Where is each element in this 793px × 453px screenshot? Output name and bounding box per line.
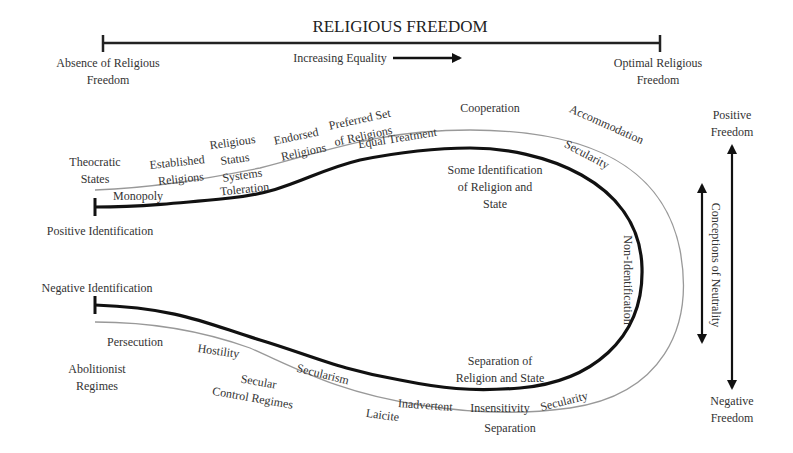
label-abolitionist-line1: Abolitionist: [68, 362, 126, 376]
label-secularism: Secularism: [295, 361, 351, 388]
label-abolitionist-line2: Regimes: [76, 379, 118, 393]
label-monopoly: Monopoly: [113, 189, 163, 203]
label-accommodation: Accommodation: [567, 102, 646, 147]
optimal-label-line1: Optimal Religious: [614, 56, 703, 70]
negative-freedom-line1: Negative: [710, 394, 753, 408]
increasing-equality-label: Increasing Equality: [293, 51, 387, 65]
label-non-identification: Non-Identification: [621, 235, 635, 324]
positive-freedom-line2: Freedom: [711, 125, 754, 139]
label-secularity-lower: Secularity: [539, 388, 590, 413]
label-persecution: Persecution: [107, 335, 163, 349]
label-theocratic-line1: Theocratic: [69, 155, 120, 169]
label-separation: Separation: [484, 421, 535, 435]
region-separation-line1: Separation of: [468, 354, 532, 368]
label-theocratic-line2: States: [81, 172, 110, 186]
region-identification-line2: of Religion and: [458, 180, 533, 194]
label-insensitivity: Insensitivity: [470, 401, 529, 415]
region-identification-line1: Some Identification: [448, 163, 543, 177]
conceptions-of-neutrality-label: Conceptions of Neutrality: [709, 203, 723, 328]
region-identification-line3: State: [483, 197, 507, 211]
label-hostility: Hostility: [197, 341, 241, 361]
absence-label-line1: Absence of Religious: [56, 56, 160, 70]
region-separation-line2: Religion and State: [456, 371, 545, 385]
positive-freedom-line1: Positive: [713, 108, 752, 122]
label-secular-control-line2: Control Regimes: [211, 384, 294, 412]
absence-label-line2: Freedom: [87, 73, 130, 87]
label-established-line1: Established: [149, 152, 205, 172]
positive-identification-label: Positive Identification: [47, 224, 153, 238]
label-established-line2: Religions: [157, 169, 205, 188]
diagram-title: RELIGIOUS FREEDOM: [312, 17, 487, 36]
label-status-systems-line1: Religious: [209, 132, 257, 152]
optimal-label-line2: Freedom: [637, 73, 680, 87]
label-laicite: Laicite: [365, 406, 400, 424]
negative-freedom-line2: Freedom: [711, 411, 754, 425]
label-inadvertent: Inadvertent: [398, 396, 454, 414]
label-cooperation: Cooperation: [460, 101, 519, 115]
religious-freedom-diagram: RELIGIOUS FREEDOM Absence of Religious F…: [0, 0, 793, 453]
label-status-systems-line2: Status: [219, 150, 250, 168]
negative-identification-label: Negative Identification: [42, 281, 153, 295]
